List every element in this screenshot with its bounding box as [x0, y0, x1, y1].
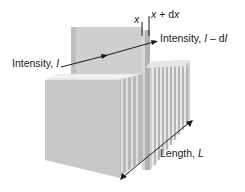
intensity-in-text: Intensity,: [12, 57, 56, 69]
x-symbol: x: [134, 13, 139, 25]
slice-dx: [142, 30, 150, 170]
intensity-in-symbol: I: [56, 57, 59, 69]
label-x-plus-dx: x + dx: [151, 9, 179, 20]
intensity-out-text: Intensity,: [160, 32, 204, 44]
length-symbol: L: [198, 147, 204, 159]
label-x: x: [134, 14, 139, 25]
label-length: Length, L: [160, 148, 204, 159]
sample-slab-diagram: [0, 0, 245, 192]
x-plus-dx-symbol2: x: [174, 8, 179, 20]
length-text: Length,: [160, 147, 198, 159]
intensity-out-symbol2: I: [225, 32, 228, 44]
label-intensity-in: Intensity, I: [12, 58, 59, 69]
front-slab: [45, 74, 143, 178]
label-intensity-out: Intensity, I – dI: [160, 33, 228, 44]
x-plus-dx-mid: + d: [156, 8, 174, 20]
intensity-out-minus: – d: [207, 32, 225, 44]
